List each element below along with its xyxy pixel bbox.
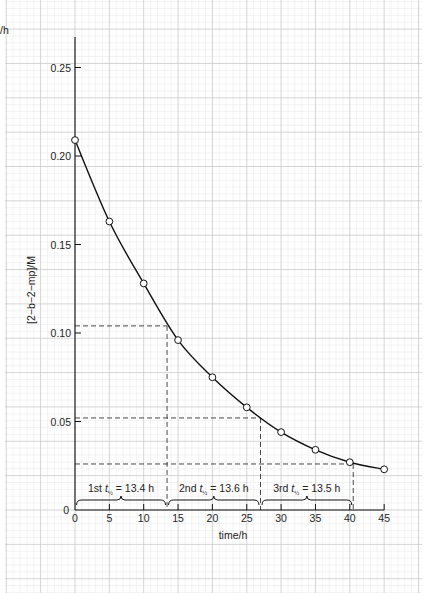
y-axis-title: [2−b−2−mp]/M [25, 256, 37, 324]
x-tick-label: 45 [378, 512, 390, 524]
x-tick-label: 0 [72, 512, 78, 524]
half-life-label: 2nd t½ = 13.6 h [179, 482, 249, 496]
x-tick-label: 15 [172, 512, 184, 524]
y-tick-label: 0.20 [51, 150, 72, 162]
data-point-marker [72, 137, 79, 144]
corner-fragment: /h [0, 24, 9, 36]
y-tick-label: 0.10 [51, 327, 72, 339]
half-life-label: 3rd t½ = 13.5 h [273, 482, 340, 496]
x-tick-label: 30 [275, 512, 287, 524]
x-tick-label: 20 [207, 512, 219, 524]
x-axis-title: time/h [219, 529, 248, 541]
data-point-marker [346, 459, 353, 466]
y-tick-label: 0.15 [51, 239, 72, 251]
data-point-marker [278, 429, 285, 436]
y-tick-label: 0.25 [51, 62, 72, 74]
x-tick-label: 10 [138, 512, 150, 524]
x-tick-label: 40 [344, 512, 356, 524]
y-tick-label: 0.05 [51, 416, 72, 428]
data-point-marker [106, 218, 113, 225]
data-point-marker [140, 280, 147, 287]
data-point-marker [381, 466, 388, 473]
x-tick-label: 25 [241, 512, 253, 524]
data-point-marker [312, 446, 319, 453]
half-life-label: 1st t½ = 13.4 h [88, 482, 154, 496]
half-life-annotations: 1st t½ = 13.4 h2nd t½ = 13.6 h3rd t½ = 1… [88, 482, 341, 496]
data-point-marker [209, 374, 216, 381]
x-tick-label: 5 [106, 512, 112, 524]
y-tick-label: 0 [63, 504, 69, 516]
data-point-marker [175, 337, 182, 344]
data-point-marker [243, 404, 250, 411]
half-life-chart: /h 00.050.100.150.200.25 051015202530354… [0, 0, 427, 593]
x-tick-label: 35 [310, 512, 322, 524]
